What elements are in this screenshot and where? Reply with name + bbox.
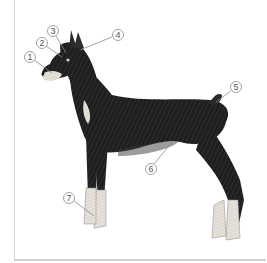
callout-number: 4: [115, 30, 120, 40]
callout-4: 4: [80, 30, 124, 51]
callout-number: 2: [39, 38, 44, 48]
callout-number: 1: [27, 52, 32, 62]
callout-number: 7: [66, 193, 71, 203]
callout-number: 5: [233, 82, 238, 92]
callout-number: 3: [50, 26, 55, 36]
callout-1: 1: [25, 52, 53, 74]
dog-illustration: [42, 30, 244, 240]
callout-number: 6: [148, 164, 153, 174]
dog-anatomy-diagram: 1 2 3 4 5 6 7: [0, 0, 267, 263]
callout-5: 5: [216, 82, 242, 103]
